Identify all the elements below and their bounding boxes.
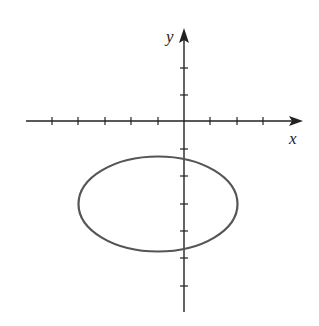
coordinate-plot: x y [0,0,319,326]
x-axis-label: x [288,129,297,148]
y-axis-label: y [164,27,174,46]
ellipse-curve [79,157,238,252]
